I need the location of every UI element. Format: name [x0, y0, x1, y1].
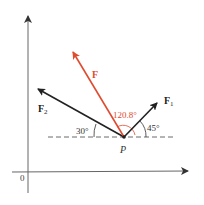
- angle-force2-label: 30°: [76, 126, 89, 136]
- x-axis: [12, 171, 188, 172]
- force2-label: F2: [38, 103, 48, 116]
- resultant-label: F: [92, 69, 98, 80]
- angle-arc-force2: [94, 124, 96, 137]
- force1-label: F1: [164, 95, 174, 108]
- vector-resultant: [73, 52, 124, 137]
- force-diagram: 0 P F F2 F1 120.8° 30° 45°: [0, 0, 204, 205]
- angle-arc-force1: [140, 121, 146, 137]
- point-p: [122, 135, 126, 139]
- point-p-label: P: [119, 144, 126, 155]
- angle-resultant-label: 120.8°: [113, 110, 137, 120]
- angle-force1-label: 45°: [147, 123, 160, 133]
- origin-label: 0: [20, 173, 25, 183]
